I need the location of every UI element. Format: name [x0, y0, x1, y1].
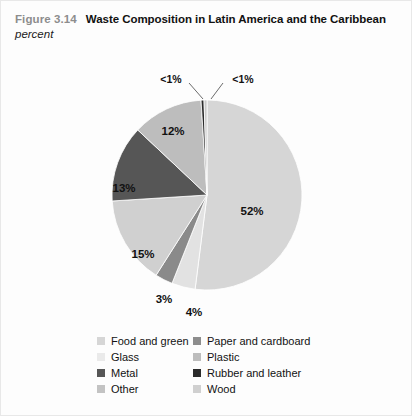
- slice-label-rubber: <1%: [232, 73, 254, 85]
- legend-swatch-icon: [193, 353, 201, 361]
- legend-label: Glass: [111, 352, 139, 363]
- slice-label-paper: 12%: [161, 125, 184, 137]
- slice-label-wood: <1%: [160, 73, 182, 85]
- legend-swatch-icon: [193, 337, 201, 345]
- slice-label-plastic: 4%: [186, 306, 203, 317]
- legend-item-paper-and-cardboard[interactable]: Paper and cardboard: [193, 333, 343, 349]
- legend-label: Wood: [207, 384, 236, 395]
- slice-label-other: 15%: [131, 248, 154, 260]
- legend-item-glass[interactable]: Glass: [97, 349, 193, 365]
- legend-swatch-icon: [193, 369, 201, 377]
- legend-item-other[interactable]: Other: [97, 381, 193, 397]
- pie-slices-group: [112, 100, 302, 290]
- legend: Food and green Glass Metal Other Paper a…: [97, 333, 347, 397]
- legend-item-rubber-and-leather[interactable]: Rubber and leather: [193, 365, 343, 381]
- figure-title: Waste Composition in Latin America and t…: [86, 13, 386, 25]
- legend-column-right: Paper and cardboard Plastic Rubber and l…: [193, 333, 343, 397]
- legend-swatch-icon: [97, 353, 105, 361]
- figure-header: Figure 3.14Waste Composition in Latin Am…: [15, 9, 401, 40]
- figure-number: Figure 3.14: [15, 13, 77, 25]
- legend-label: Other: [111, 384, 139, 395]
- legend-label: Rubber and leather: [207, 368, 301, 379]
- legend-item-wood[interactable]: Wood: [193, 381, 343, 397]
- slice-label-food-and-green: 52%: [240, 205, 263, 217]
- legend-swatch-icon: [97, 385, 105, 393]
- slice-label-metal: 13%: [112, 182, 135, 194]
- legend-label: Food and green: [111, 336, 189, 347]
- pie-chart-svg: <1% <1% 52% 12% 13% 15% 3% 4%: [111, 73, 303, 317]
- figure-title-line: Figure 3.14Waste Composition in Latin Am…: [15, 9, 401, 27]
- leader-line-left: [189, 83, 203, 99]
- legend-label: Plastic: [207, 352, 239, 363]
- legend-swatch-icon: [97, 337, 105, 345]
- leader-line-right: [211, 83, 223, 99]
- pie-slice: [195, 100, 302, 290]
- figure-container: Figure 3.14Waste Composition in Latin Am…: [0, 0, 412, 416]
- legend-swatch-icon: [97, 369, 105, 377]
- legend-item-metal[interactable]: Metal: [97, 365, 193, 381]
- legend-item-plastic[interactable]: Plastic: [193, 349, 343, 365]
- pie-chart: <1% <1% 52% 12% 13% 15% 3% 4%: [111, 73, 303, 317]
- legend-label: Metal: [111, 368, 138, 379]
- slice-label-glass: 3%: [156, 293, 173, 305]
- legend-item-food-and-green[interactable]: Food and green: [97, 333, 193, 349]
- legend-swatch-icon: [193, 385, 201, 393]
- legend-column-left: Food and green Glass Metal Other: [97, 333, 193, 397]
- legend-label: Paper and cardboard: [207, 336, 310, 347]
- figure-subtitle: percent: [15, 28, 401, 40]
